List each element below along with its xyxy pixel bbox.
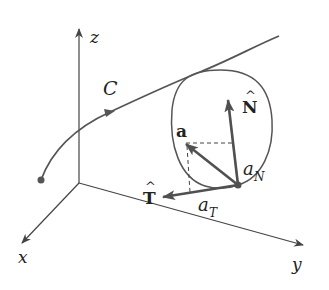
svg-text:a: a (243, 158, 254, 179)
diagram-svg: z x y C a N ^ T ^ a N a T (0, 0, 329, 290)
x-axis (22, 183, 79, 243)
diagram-canvas: z x y C a N ^ T ^ a N a T (0, 0, 329, 290)
curve-start-point (38, 177, 45, 184)
hat-icon: ^ (145, 179, 156, 194)
hat-icon: ^ (245, 88, 256, 103)
normal-component-label: a N (243, 158, 265, 184)
svg-text:a: a (198, 194, 209, 215)
point-p (235, 182, 242, 189)
acceleration-label: a (176, 121, 187, 141)
coordinate-axes (22, 29, 303, 245)
unit-tangent-label: T ^ (143, 179, 156, 208)
unit-normal-label: N ^ (242, 88, 258, 117)
acceleration-vector (186, 144, 238, 185)
tangential-component-label: a T (198, 194, 218, 220)
z-axis-label: z (89, 27, 100, 47)
curve-label: C (103, 77, 118, 99)
x-axis-label: x (18, 247, 28, 267)
svg-text:N: N (253, 170, 265, 184)
y-axis-label: y (291, 254, 302, 274)
svg-text:T: T (209, 206, 218, 220)
